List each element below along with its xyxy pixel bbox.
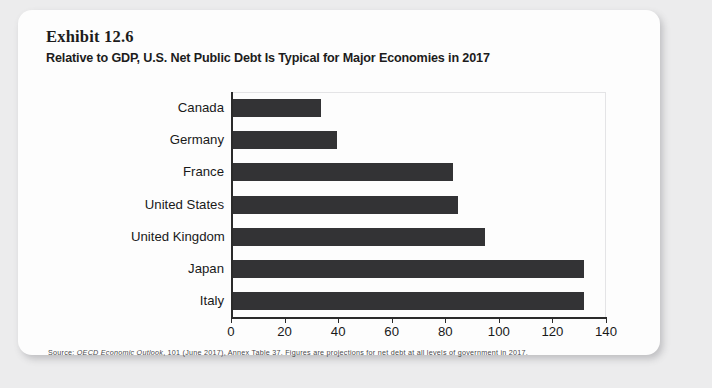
exhibit-number: Exhibit 12.6 [46,27,626,47]
x-axis-tick [231,317,232,323]
title-block: Exhibit 12.6 Relative to GDP, U.S. Net P… [46,27,626,68]
x-axis-tick [499,317,500,323]
source-note: Source: OECD Economic Outlook, 101 (June… [48,348,648,357]
x-axis-tick-label: 40 [318,324,358,339]
bar-row: United States [131,189,607,221]
bar [233,228,485,246]
bar-row: Germany [131,124,607,156]
bar-category-label: Germany [131,124,224,156]
bar-chart: CanadaGermanyFranceUnited StatesUnited K… [131,92,607,322]
bar-category-label: Japan [131,253,224,285]
bar [233,131,337,149]
bar-row: United Kingdom [131,221,607,253]
x-axis-tick-label: 140 [586,324,626,339]
bar-category-label: Italy [131,285,224,317]
x-axis-tick-label: 20 [265,324,305,339]
x-axis-tick-label: 80 [425,324,465,339]
bar-row: Italy [131,285,607,317]
x-axis-tick [552,317,553,323]
bar [233,99,321,117]
exhibit-card: Exhibit 12.6 Relative to GDP, U.S. Net P… [18,10,660,355]
x-axis-tick-label: 0 [211,324,251,339]
x-axis-tick [392,317,393,323]
bar [233,260,584,278]
exhibit-title: Relative to GDP, U.S. Net Public Debt Is… [46,49,626,68]
x-axis-tick [445,317,446,323]
x-axis-tick [285,317,286,323]
x-axis-tick-label: 100 [479,324,519,339]
bar-row: France [131,156,607,188]
bar [233,196,458,214]
bar-category-label: Canada [131,92,224,124]
bar-category-label: United Kingdom [131,221,224,253]
bar [233,292,584,310]
x-axis-tick-label: 120 [532,324,572,339]
bar-category-label: United States [131,189,224,221]
bar-row: Japan [131,253,607,285]
x-axis-tick-label: 60 [372,324,412,339]
bar-category-label: France [131,156,224,188]
source-publication: OECD Economic Outlook [77,348,163,357]
x-axis-tick [338,317,339,323]
source-rest: , 101 (June 2017), Annex Table 37. Figur… [163,348,528,357]
x-axis-tick [606,317,607,323]
source-prefix: Source: [48,348,77,357]
bar [233,163,453,181]
bar-row: Canada [131,92,607,124]
